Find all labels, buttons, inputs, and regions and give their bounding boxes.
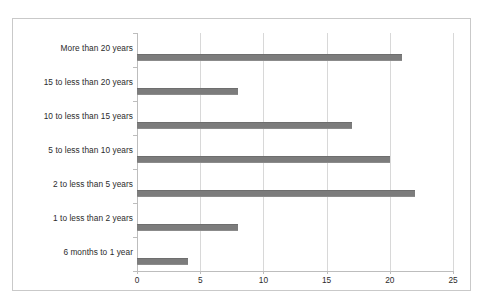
bar bbox=[137, 122, 352, 129]
y-axis-label: 10 to less than 15 years bbox=[21, 112, 133, 121]
bar bbox=[137, 224, 238, 231]
bar-chart: More than 20 years15 to less than 20 yea… bbox=[13, 19, 470, 290]
x-axis-tick-label: 15 bbox=[322, 275, 331, 285]
bar bbox=[137, 156, 390, 163]
bar bbox=[137, 258, 188, 265]
y-axis-label: 1 to less than 2 years bbox=[21, 214, 133, 223]
bar bbox=[137, 190, 415, 197]
x-axis-tick-labels: 0510152025 bbox=[137, 275, 453, 291]
y-axis-label: 6 months to 1 year bbox=[21, 248, 133, 257]
bar-row bbox=[137, 224, 453, 231]
bar bbox=[137, 54, 402, 61]
bar-row bbox=[137, 88, 453, 95]
bar bbox=[137, 88, 238, 95]
x-axis-tick-mark bbox=[327, 271, 328, 274]
y-axis-label: 15 to less than 20 years bbox=[21, 78, 133, 87]
plot-region bbox=[137, 33, 453, 271]
bar-row bbox=[137, 122, 453, 129]
y-axis-label: More than 20 years bbox=[21, 44, 133, 53]
bar-row bbox=[137, 156, 453, 163]
x-axis-tick-mark bbox=[263, 271, 264, 274]
figure-frame: More than 20 years15 to less than 20 yea… bbox=[12, 18, 471, 291]
x-axis-tick-label: 25 bbox=[448, 275, 457, 285]
x-axis-tick-mark bbox=[390, 271, 391, 274]
bar-row bbox=[137, 54, 453, 61]
x-axis-tick-label: 10 bbox=[259, 275, 268, 285]
gridline-25 bbox=[453, 33, 454, 271]
x-axis-tick-mark bbox=[137, 271, 138, 274]
x-axis-line bbox=[137, 271, 454, 272]
x-axis-tick-label: 20 bbox=[385, 275, 394, 285]
y-axis-labels: More than 20 years15 to less than 20 yea… bbox=[19, 33, 133, 271]
bar-row bbox=[137, 190, 453, 197]
x-axis-tick-mark bbox=[200, 271, 201, 274]
y-axis-label: 2 to less than 5 years bbox=[21, 180, 133, 189]
x-axis-tick-label: 0 bbox=[135, 275, 140, 285]
x-axis-tick-mark bbox=[453, 271, 454, 274]
y-axis-label: 5 to less than 10 years bbox=[21, 146, 133, 155]
bar-row bbox=[137, 258, 453, 265]
x-axis-tick-label: 5 bbox=[198, 275, 203, 285]
